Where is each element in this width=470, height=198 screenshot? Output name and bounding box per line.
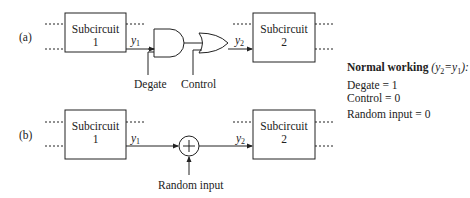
or-gate (199, 33, 228, 53)
subcircuit-2-label-b: Subcircuit 2 (253, 120, 315, 146)
heading-text: Normal working (347, 61, 428, 73)
signal-sub: 2 (241, 137, 245, 146)
subcircuit-1-label-b: Subcircuit 1 (65, 120, 126, 146)
subcircuit-2-label-a: Subcircuit 2 (253, 23, 315, 49)
subcircuit-number: 1 (65, 133, 126, 146)
random-input-label: Random input (158, 180, 224, 192)
subcircuit-title: Subcircuit (65, 120, 126, 133)
control-label: Control (181, 79, 216, 91)
note-line-control: Control = 0 (347, 93, 400, 105)
degate-label: Degate (134, 79, 167, 91)
signal-y2-a: y2 (235, 35, 244, 48)
condition-text: (y2=y1): (431, 61, 468, 73)
subcircuit-title: Subcircuit (253, 120, 315, 133)
normal-working-heading: Normal working (y2=y1): (347, 62, 469, 76)
note-line-random: Random input = 0 (347, 109, 430, 121)
panel-a-label: (a) (19, 32, 32, 44)
signal-y2-b: y2 (236, 133, 245, 146)
subcircuit-title: Subcircuit (253, 23, 315, 36)
signal-sub: 2 (240, 39, 244, 48)
subcircuit-number: 2 (253, 36, 315, 49)
signal-sub: 1 (136, 137, 140, 146)
subcircuit-title: Subcircuit (65, 23, 126, 36)
subcircuit-number: 2 (253, 133, 315, 146)
signal-sub: 1 (136, 39, 140, 48)
panel-b-label: (b) (19, 130, 32, 142)
note-line-degate: Degate = 1 (347, 80, 398, 92)
subcircuit-1-label-a: Subcircuit 1 (65, 23, 126, 49)
and-gate (154, 29, 184, 57)
subcircuit-number: 1 (65, 36, 126, 49)
signal-y1-b: y1 (131, 133, 140, 146)
signal-y1-a: y1 (131, 35, 140, 48)
